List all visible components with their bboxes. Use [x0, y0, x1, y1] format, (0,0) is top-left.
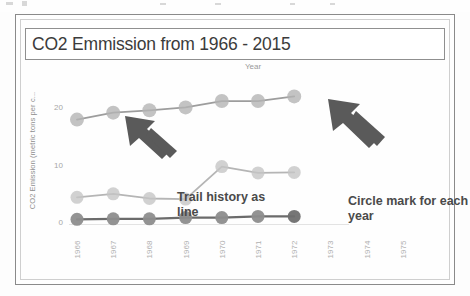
data-point-marker[interactable] [288, 210, 301, 223]
y-tick-10: 10 [47, 161, 63, 170]
annotation-trail-history: Trail history as line [177, 190, 287, 220]
x-tick-1973: 1973 [326, 235, 335, 265]
x-tick-1974: 1974 [362, 235, 371, 265]
data-point-marker[interactable] [107, 187, 120, 200]
data-point-marker[interactable] [288, 166, 301, 179]
x-tick-1971: 1971 [254, 235, 263, 265]
x-axis-title: Year [25, 62, 445, 71]
data-point-marker[interactable] [215, 94, 229, 108]
data-point-marker[interactable] [251, 94, 265, 108]
x-tick-1970: 1970 [217, 235, 226, 265]
y-axis-title-label: CO2 Emission (metric tons per c... [29, 91, 38, 209]
data-point-marker[interactable] [252, 166, 265, 179]
x-tick-1967: 1967 [109, 235, 118, 265]
data-point-marker[interactable] [143, 192, 156, 205]
data-point-marker[interactable] [107, 212, 120, 225]
slide-screenshot: CO2 Emmission from 1966 - 2015 Year CO2 … [0, 0, 470, 296]
x-tick-1968: 1968 [145, 235, 154, 265]
scan-artifact-strip [0, 0, 470, 12]
data-point-marker[interactable] [71, 213, 84, 226]
data-point-marker[interactable] [71, 191, 84, 204]
y-tick-20: 20 [47, 103, 63, 112]
x-tick-1975: 1975 [398, 235, 407, 265]
page-title: CO2 Emmission from 1966 - 2015 [26, 34, 291, 55]
data-point-marker[interactable] [70, 113, 84, 127]
arrow-up-left-icon [323, 94, 401, 150]
x-tick-1966: 1966 [73, 235, 82, 265]
chart-title-box: CO2 Emmission from 1966 - 2015 [25, 28, 445, 60]
data-point-marker[interactable] [106, 106, 120, 120]
x-axis-title-label: Year [245, 62, 261, 71]
chart-area: Year CO2 Emission (metric tons per c... … [25, 62, 445, 277]
data-point-marker[interactable] [287, 89, 301, 103]
y-axis-title: CO2 Emission (metric tons per c... [27, 70, 39, 230]
y-tick-0: 0 [47, 218, 63, 227]
data-point-marker[interactable] [143, 212, 156, 225]
x-tick-1972: 1972 [290, 235, 299, 265]
arrow-up-left-icon [121, 110, 193, 162]
data-point-marker[interactable] [215, 160, 228, 173]
annotation-circle-mark: Circle mark for each year [348, 194, 470, 224]
x-tick-1969: 1969 [181, 235, 190, 265]
